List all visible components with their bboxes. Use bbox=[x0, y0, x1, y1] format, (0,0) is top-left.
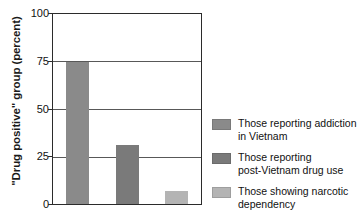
legend-item-label: Those reporting addiction in Vietnam bbox=[238, 117, 357, 142]
legend-item-label: Those reporting post-Vietnam drug use bbox=[238, 151, 343, 176]
bar-chart-figure: "Drug positive" group (percent) 100 75 5… bbox=[0, 0, 358, 223]
y-axis-title: "Drug positive" group (percent) bbox=[10, 6, 22, 196]
y-tick-label-0: 0 bbox=[9, 199, 49, 210]
legend-swatch-icon bbox=[212, 187, 231, 198]
legend-item-post-vietnam-drug-use: Those reporting post-Vietnam drug use bbox=[212, 151, 358, 176]
bar-narcotic-dependency bbox=[165, 191, 188, 204]
legend-item-narcotic-dependency: Those showing narcotic dependency bbox=[212, 185, 358, 210]
y-tick-label-100: 100 bbox=[9, 8, 49, 19]
bar-post-vietnam-drug-use bbox=[116, 145, 139, 204]
legend-swatch-icon bbox=[212, 153, 231, 164]
legend: Those reporting addiction in Vietnam Tho… bbox=[212, 117, 358, 219]
plot-area bbox=[52, 13, 202, 205]
y-tick-label-50: 50 bbox=[9, 104, 49, 115]
legend-item-addiction-in-vietnam: Those reporting addiction in Vietnam bbox=[212, 117, 358, 142]
y-tick-label-25: 25 bbox=[9, 151, 49, 162]
legend-swatch-icon bbox=[212, 119, 231, 130]
bar-addiction-in-vietnam bbox=[66, 62, 89, 205]
y-tick-label-75: 75 bbox=[9, 56, 49, 67]
legend-item-label: Those showing narcotic dependency bbox=[238, 185, 348, 210]
